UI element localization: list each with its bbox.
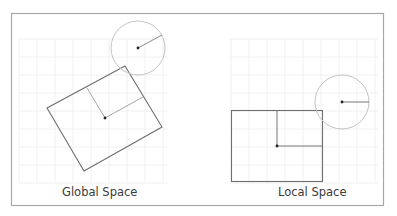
local-space-label: Local Space [278, 185, 347, 199]
local-circle-center-dot [341, 101, 344, 104]
global-rect-center-dot [104, 117, 107, 120]
global-space-label: Global Space [62, 185, 137, 199]
diagram-frame [12, 14, 384, 206]
global-circle-center-dot [137, 47, 140, 50]
local-rect-center-dot [276, 145, 279, 148]
global-vs-local-space-diagram [0, 0, 397, 216]
